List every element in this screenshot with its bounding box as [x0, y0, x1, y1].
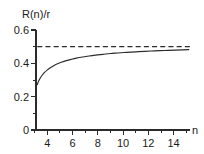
- x-tick-label-10: 10: [117, 137, 129, 149]
- chart-figure: R(n)/r n 0.6 0.4 0.2 0: [0, 0, 204, 154]
- y-tick-label-0.6: 0.6: [14, 24, 29, 36]
- x-axis-title: n: [192, 124, 198, 136]
- data-curve: [37, 50, 188, 85]
- x-tick-label-8: 8: [95, 137, 101, 149]
- x-tick-label-12: 12: [142, 137, 154, 149]
- y-tick-label-0: 0: [23, 124, 29, 136]
- y-tick-label-0.4: 0.4: [14, 57, 29, 69]
- x-tick-label-4: 4: [44, 137, 50, 149]
- x-tick-label-6: 6: [70, 137, 76, 149]
- chart-plot-area: R(n)/r n 0.6 0.4 0.2 0: [0, 0, 204, 154]
- x-tick-label-14: 14: [168, 137, 180, 149]
- y-axis-title: R(n)/r: [22, 8, 50, 20]
- y-tick-label-0.2: 0.2: [14, 91, 29, 103]
